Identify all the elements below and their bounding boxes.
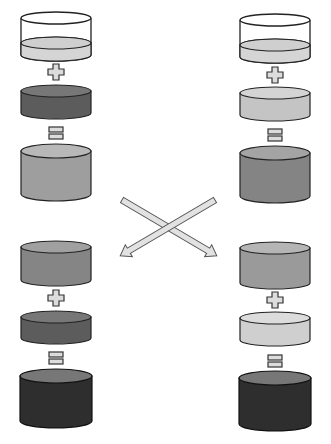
cross-arrows xyxy=(117,194,221,262)
left-medium-cylinder xyxy=(21,144,91,201)
plus-icon xyxy=(48,290,64,306)
right-bottom-start-cylinder xyxy=(240,242,310,289)
right-beaker xyxy=(240,14,310,63)
left-dark-disk xyxy=(21,85,91,119)
right-column xyxy=(239,14,311,431)
equals-icon xyxy=(268,355,282,367)
left-bottom-dark-disk xyxy=(21,311,91,344)
left-bottom-start-cylinder xyxy=(21,241,91,286)
mixing-diagram xyxy=(0,0,331,444)
left-column xyxy=(20,12,92,428)
plus-icon xyxy=(267,67,283,83)
equals-icon xyxy=(49,352,63,364)
equals-icon xyxy=(49,127,63,139)
left-beaker xyxy=(21,12,91,61)
right-medium-dark-cylinder xyxy=(240,146,310,203)
equals-icon xyxy=(268,129,282,141)
right-darkest-cylinder xyxy=(239,371,311,431)
right-light-disk xyxy=(240,87,310,121)
right-bottom-light-disk xyxy=(240,312,310,346)
left-darkest-cylinder xyxy=(20,369,92,428)
plus-icon xyxy=(48,64,64,80)
plus-icon xyxy=(267,292,283,308)
